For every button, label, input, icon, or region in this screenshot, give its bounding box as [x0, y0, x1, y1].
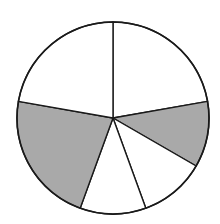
pie-chart-svg: [0, 0, 220, 224]
pie-chart: [0, 0, 220, 224]
pie-slice-6-unshaded: [18, 22, 113, 118]
